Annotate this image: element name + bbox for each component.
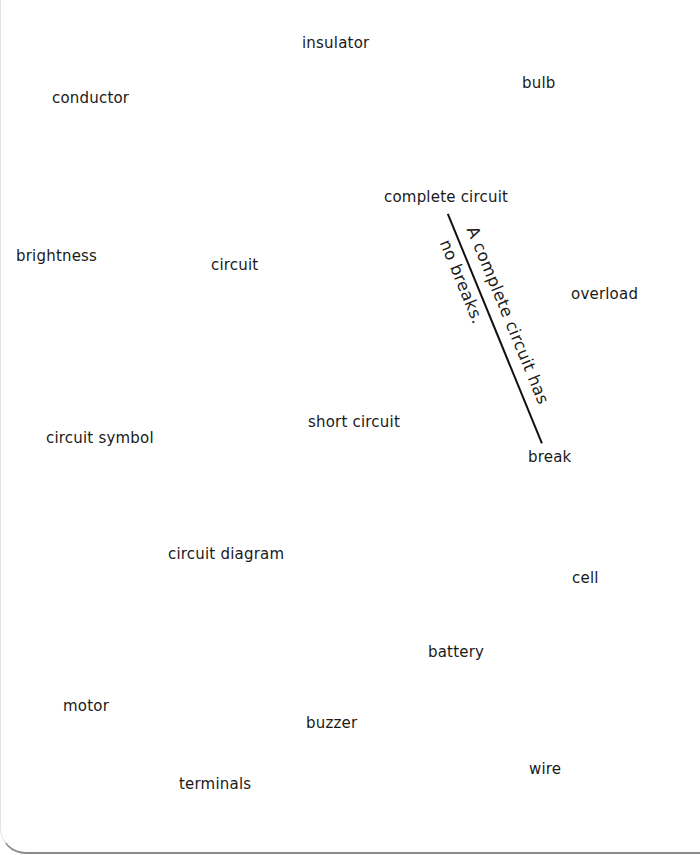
word-complete-circuit: complete circuit [384,190,508,205]
word-insulator: insulator [302,36,369,51]
word-short-circuit: short circuit [308,415,400,430]
word-brightness: brightness [16,249,97,264]
word-cell: cell [572,571,599,586]
word-circuit-diagram: circuit diagram [168,547,284,562]
word-bulb: bulb [522,76,556,91]
word-buzzer: buzzer [306,716,357,731]
word-conductor: conductor [52,91,129,106]
word-battery: battery [428,645,484,660]
word-circuit-symbol: circuit symbol [46,431,154,446]
word-overload: overload [571,287,638,302]
word-break: break [528,450,571,465]
word-wire: wire [529,762,561,777]
word-circuit: circuit [211,258,258,273]
word-terminals: terminals [179,777,251,792]
word-motor: motor [63,699,109,714]
